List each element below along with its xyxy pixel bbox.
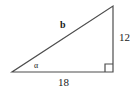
vertical-leg-label: 12 bbox=[119, 32, 130, 43]
horizontal-leg-label: 18 bbox=[58, 77, 69, 88]
triangle-drawing bbox=[0, 0, 139, 93]
hypotenuse-label: b bbox=[60, 20, 66, 30]
triangle-outline bbox=[12, 6, 113, 72]
right-triangle-figure: 12 18 b α bbox=[0, 0, 139, 93]
angle-alpha-label: α bbox=[34, 62, 38, 70]
right-angle-marker-icon bbox=[105, 64, 113, 72]
